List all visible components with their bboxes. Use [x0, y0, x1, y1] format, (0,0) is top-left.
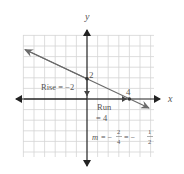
run-label: Run	[97, 102, 112, 112]
slope-frac2-den: 2	[148, 138, 151, 145]
y-intercept-label: 2	[89, 70, 94, 80]
svg-text:= −: = −	[101, 133, 113, 142]
slope-frac1-num: 2	[117, 128, 120, 135]
x-intercept-label: 4	[126, 87, 131, 97]
svg-text:m: m	[92, 132, 98, 142]
x-intercept-point	[128, 97, 132, 101]
rise-label: Rise = −2	[41, 82, 74, 92]
slope-frac2-num: 1	[148, 128, 151, 135]
run-value-label: = 4	[96, 113, 108, 123]
x-axis-label: x	[167, 93, 173, 104]
slope-graph: y x 2 4 Rise = −2 Run = 4 m m = − = − 2 …	[0, 0, 184, 174]
y-axis-label: y	[84, 11, 90, 22]
slope-eq-mid: = −	[124, 133, 136, 142]
